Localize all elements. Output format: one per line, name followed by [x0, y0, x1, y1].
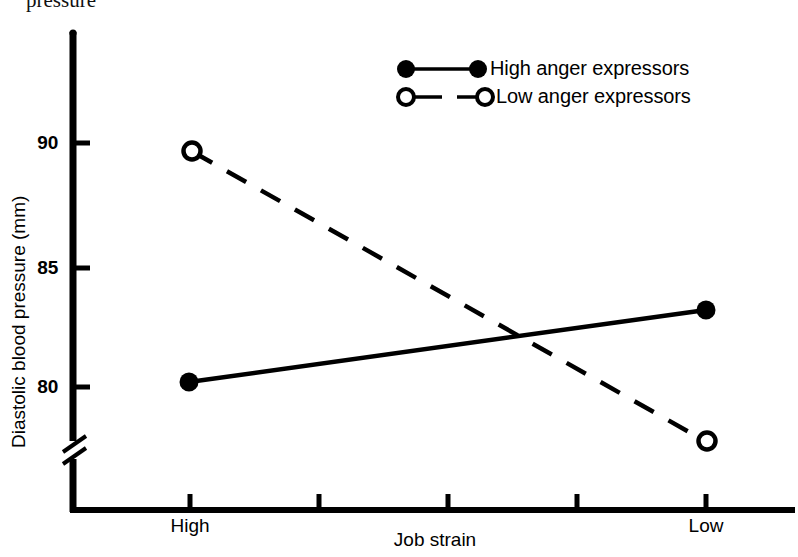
- y-tick-label-90: 90: [16, 132, 58, 154]
- legend-marker-low-anger-left: [398, 89, 414, 105]
- legend-label-low-anger: Low anger expressors: [496, 85, 691, 108]
- series-high-anger-line: [189, 310, 706, 382]
- legend-marker-high-anger-right: [469, 60, 487, 78]
- legend-marker-high-anger-left: [397, 60, 415, 78]
- x-tick-label-high: High: [150, 515, 230, 537]
- chart-canvas: [0, 0, 798, 557]
- chart-page: pressure: [0, 0, 798, 557]
- series-high-anger-point-low: [697, 301, 716, 320]
- series-high-anger-point-high: [180, 373, 199, 392]
- series-low-anger-line: [193, 152, 705, 441]
- series-low-anger-point-high: [184, 143, 201, 160]
- x-axis-title: Job strain: [360, 529, 510, 551]
- y-axis-title: Diastolic blood pressure (mm): [8, 196, 30, 448]
- legend-label-high-anger: High anger expressors: [490, 57, 689, 80]
- series-low-anger-point-low: [699, 433, 716, 450]
- legend-marker-low-anger-right: [477, 89, 493, 105]
- y-axis-top-cap: [69, 29, 76, 36]
- x-tick-label-low: Low: [666, 515, 746, 537]
